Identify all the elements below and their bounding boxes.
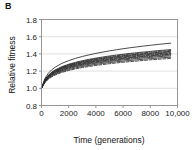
x-tick-label: 10,000 — [165, 109, 190, 118]
x-tick-label: 4000 — [87, 109, 105, 118]
y-axis-ticks: 0.81.01.21.41.61.8 — [26, 16, 42, 111]
y-axis-title: Relative fitness — [7, 36, 17, 94]
figure-panel: B 0200040006000800010,000 0.81.01.21.41.… — [0, 0, 195, 150]
y-tick-label: 1.4 — [26, 50, 38, 59]
curve-population-1 — [42, 43, 171, 88]
x-axis-ticks: 0200040006000800010,000 — [39, 106, 190, 118]
chart-plot: 0200040006000800010,000 0.81.01.21.41.61… — [0, 0, 195, 150]
x-tick-label: 0 — [39, 109, 44, 118]
y-tick-label: 1.6 — [26, 33, 38, 42]
x-tick-label: 6000 — [114, 109, 132, 118]
y-tick-label: 1.8 — [26, 16, 38, 25]
y-tick-label: 1.2 — [26, 67, 38, 76]
y-tick-label: 1.0 — [26, 84, 38, 93]
x-tick-label: 8000 — [141, 109, 159, 118]
y-tick-label: 0.8 — [26, 102, 38, 111]
x-tick-label: 2000 — [60, 109, 78, 118]
x-axis-title: Time (generations) — [73, 135, 144, 145]
data-curves — [42, 43, 171, 88]
